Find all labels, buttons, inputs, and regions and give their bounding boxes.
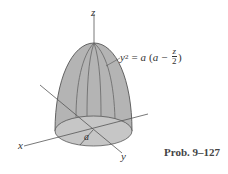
eq-minus: − bbox=[161, 51, 167, 63]
eq-close-paren: ) bbox=[178, 51, 182, 63]
equation: y2 = a ( a − z 2 ) bbox=[120, 47, 182, 66]
y-axis-label: y bbox=[121, 151, 126, 162]
x-axis-label: x bbox=[18, 140, 23, 151]
z-axis-label: z bbox=[91, 7, 95, 18]
eq-coef: a bbox=[141, 51, 147, 63]
figure-caption: Prob. 9–127 bbox=[164, 146, 220, 158]
eq-inner-var: a bbox=[153, 51, 159, 63]
eq-frac-den: 2 bbox=[172, 57, 177, 66]
eq-exponent: 2 bbox=[125, 53, 129, 61]
base-ellipse bbox=[55, 116, 132, 146]
radius-label: a bbox=[84, 132, 89, 142]
eq-fraction: z 2 bbox=[172, 47, 178, 66]
eq-equals: = bbox=[131, 51, 137, 63]
